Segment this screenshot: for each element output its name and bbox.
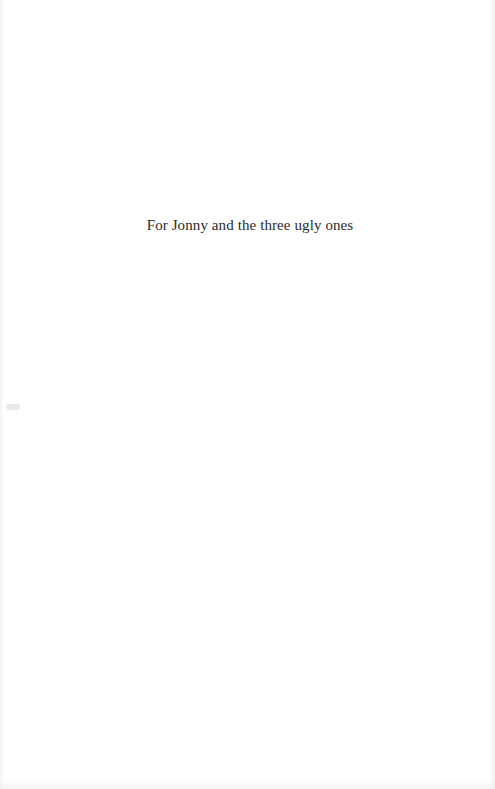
scan-smudge [6,404,20,410]
dedication-text: For Jonny and the three ugly ones [0,215,495,235]
scan-edge-bottom [0,781,495,789]
scan-edge-left [0,0,4,789]
scan-edge-right [490,0,495,789]
book-page: For Jonny and the three ugly ones [0,0,495,789]
